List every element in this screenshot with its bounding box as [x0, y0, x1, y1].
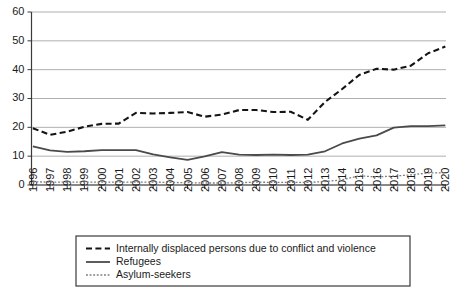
x-tick-label: 2007 — [216, 168, 228, 192]
x-tick-label: 2020 — [439, 168, 451, 192]
x-tick-label: 2013 — [319, 168, 331, 192]
x-tick-label: 2014 — [336, 168, 348, 192]
chart-canvas: 0102030405060 19961997199819992000200120… — [0, 0, 456, 290]
x-tick-label: 1999 — [78, 168, 90, 192]
x-tick-label: 2015 — [353, 168, 365, 192]
y-tick-label: 50 — [12, 34, 24, 46]
x-tick-label: 1996 — [27, 168, 39, 192]
x-tick-label: 2010 — [267, 168, 279, 192]
legend-label: Refugees — [116, 255, 161, 267]
x-tick-label: 2019 — [422, 168, 434, 192]
gridlines — [32, 12, 447, 185]
x-tick-label: 2009 — [250, 168, 262, 192]
series-line-refugees — [33, 125, 446, 160]
x-tick-label: 2005 — [182, 168, 194, 192]
y-tick-label: 20 — [12, 120, 24, 132]
series-line-internally-displaced-persons — [33, 47, 446, 135]
y-tick-label: 10 — [12, 149, 24, 161]
x-tick-label: 2008 — [233, 168, 245, 192]
y-tick-label: 0 — [18, 178, 24, 190]
legend-label: Internally displaced persons due to conf… — [116, 242, 376, 254]
x-tick-label: 2003 — [147, 168, 159, 192]
x-tick-label: 1997 — [44, 168, 56, 192]
x-tick-labels: 1996199719981999200020012002200320042005… — [27, 168, 452, 192]
x-tick-label: 1998 — [61, 168, 73, 192]
x-tick-label: 2017 — [388, 168, 400, 192]
x-tick-label: 2001 — [113, 168, 125, 192]
y-tick-label: 40 — [12, 63, 24, 75]
legend: Internally displaced persons due to conf… — [76, 236, 410, 286]
x-tick-label: 2016 — [371, 168, 383, 192]
y-tick-labels: 0102030405060 — [12, 5, 31, 190]
x-tick-label: 2012 — [302, 168, 314, 192]
x-tick-label: 2002 — [130, 168, 142, 192]
x-tick-label: 2000 — [96, 168, 108, 192]
x-tick-label: 2004 — [164, 168, 176, 192]
x-tick-label: 2006 — [199, 168, 211, 192]
y-tick-label: 30 — [12, 91, 24, 103]
legend-label: Asylum-seekers — [116, 268, 191, 280]
line-chart: 0102030405060 19961997199819992000200120… — [0, 0, 456, 290]
y-tick-label: 60 — [12, 5, 24, 17]
x-tick-label: 2011 — [285, 168, 297, 192]
x-tick-label: 2018 — [405, 168, 417, 192]
data-series-group — [33, 47, 446, 183]
